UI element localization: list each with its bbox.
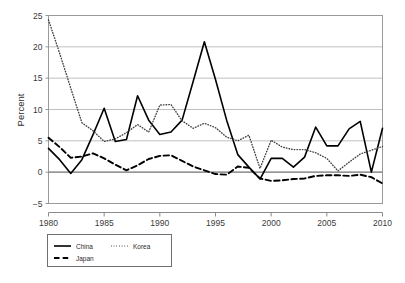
line-chart: −50510152025 198019851990199520002005201…: [0, 0, 405, 283]
x-tick-label-2010: 2010: [373, 218, 392, 228]
x-tick-label-1980: 1980: [39, 218, 58, 228]
x-tick-label-1990: 1990: [150, 218, 169, 228]
y-axis-title: Percent: [15, 93, 26, 126]
y-tick-label-10: 10: [33, 105, 43, 115]
legend-label-china: China: [76, 243, 93, 250]
y-tick-label--5: −5: [33, 199, 43, 209]
y-tick-label-5: 5: [38, 136, 43, 146]
legend-label-japan: Japan: [76, 255, 94, 263]
x-tick-label-2005: 2005: [317, 218, 336, 228]
x-tick-label-1985: 1985: [95, 218, 114, 228]
legend-label-korea: Korea: [133, 243, 151, 250]
chart-background: [0, 0, 405, 283]
x-tick-label-2000: 2000: [262, 218, 281, 228]
x-tick-label-1995: 1995: [206, 218, 225, 228]
y-tick-label-25: 25: [33, 11, 43, 21]
y-tick-label-0: 0: [38, 167, 43, 177]
chart-figure: −50510152025 198019851990199520002005201…: [0, 0, 405, 283]
y-tick-label-20: 20: [33, 42, 43, 52]
y-tick-label-15: 15: [33, 73, 43, 83]
